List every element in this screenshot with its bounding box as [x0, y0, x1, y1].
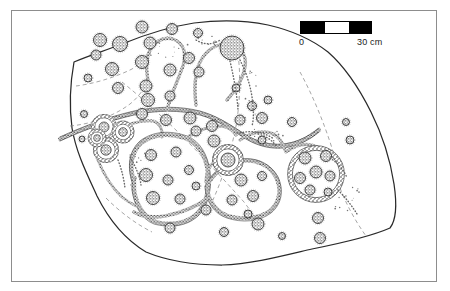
- scale-bar-zero-label: 0: [299, 37, 304, 47]
- scale-bar-white-segment: [325, 22, 349, 33]
- ringed-cupule-left-cluster-2: [112, 121, 134, 143]
- ringed-cupule-left-cluster-4: [88, 129, 106, 147]
- cupule-01: [92, 32, 107, 47]
- scale-bar-max-label: 30 cm: [357, 37, 383, 47]
- figure-root: 0 30 cm: [0, 0, 450, 291]
- cupule-02: [135, 20, 149, 34]
- scale-bar: [300, 21, 372, 34]
- ringed-cupule-center: [213, 145, 244, 176]
